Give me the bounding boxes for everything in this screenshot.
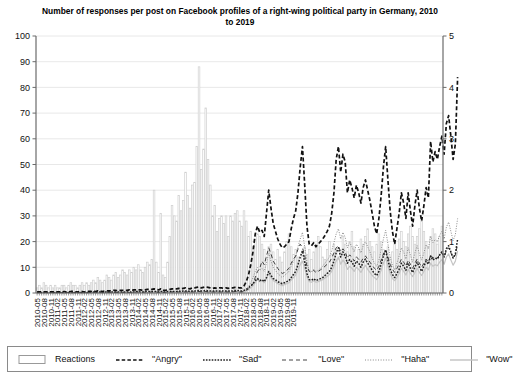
fine-dotted-swatch-icon [364, 354, 394, 365]
bar-swatch-icon [18, 354, 48, 365]
legend-item-angry[interactable]: "Angry" [115, 354, 202, 365]
legend-label-sad: "Sad" [239, 354, 261, 364]
dashed-bold-swatch-icon [115, 354, 145, 365]
dotted-swatch-icon [202, 354, 232, 365]
svg-text:80: 80 [20, 83, 30, 93]
x-tick-label: 2019-11 [289, 297, 298, 326]
dashed-swatch-icon [281, 354, 311, 365]
legend-label-angry: "Angry" [152, 354, 182, 364]
solid-light-swatch-icon [449, 354, 479, 365]
svg-text:3: 3 [449, 134, 454, 144]
legend-label-love: "Love" [318, 354, 344, 364]
legend-item-love[interactable]: "Love" [281, 354, 364, 365]
svg-text:20: 20 [20, 237, 30, 247]
svg-text:5: 5 [449, 31, 454, 41]
legend-label-haha: "Haha" [401, 354, 429, 364]
svg-text:30: 30 [20, 211, 30, 221]
legend-label-reactions: Reactions [55, 354, 95, 364]
legend-item-sad[interactable]: "Sad" [202, 354, 281, 365]
svg-text:50: 50 [20, 160, 30, 170]
svg-text:70: 70 [20, 108, 30, 118]
svg-text:4: 4 [449, 83, 454, 93]
legend-label-wow: "Wow" [486, 354, 512, 364]
svg-text:40: 40 [20, 185, 30, 195]
svg-text:2: 2 [449, 185, 454, 195]
svg-text:90: 90 [20, 57, 30, 67]
chart-svg: 01020304050607080901000123452010-052010-… [0, 0, 481, 345]
legend-item-wow[interactable]: "Wow" [449, 354, 517, 365]
legend-item-reactions[interactable]: Reactions [18, 354, 115, 365]
chart-legend: Reactions "Angry" "Sad" "Love" "Haha" [7, 346, 472, 372]
svg-text:0: 0 [25, 288, 30, 298]
legend-item-haha[interactable]: "Haha" [364, 354, 449, 365]
svg-text:1: 1 [449, 237, 454, 247]
svg-text:10: 10 [20, 263, 30, 273]
svg-text:60: 60 [20, 134, 30, 144]
svg-text:100: 100 [15, 31, 30, 41]
svg-text:0: 0 [449, 288, 454, 298]
